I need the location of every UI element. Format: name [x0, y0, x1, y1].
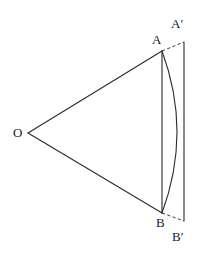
- segment-OB: [28, 133, 162, 213]
- vertex-label-A: A: [152, 33, 161, 46]
- geometry-canvas: [0, 0, 201, 262]
- arc-AB: [162, 51, 177, 213]
- segment-B-to-B-prime: [162, 213, 184, 221]
- segment-A-to-A-prime: [162, 42, 184, 51]
- vertex-label-B-prime: B′: [172, 230, 184, 243]
- vertex-label-O: O: [13, 126, 22, 139]
- vertex-label-A-prime: A′: [171, 17, 183, 30]
- geometry-figure: O A A′ B B′: [0, 0, 201, 262]
- segment-OA: [28, 51, 162, 133]
- vertex-label-B: B: [156, 216, 165, 229]
